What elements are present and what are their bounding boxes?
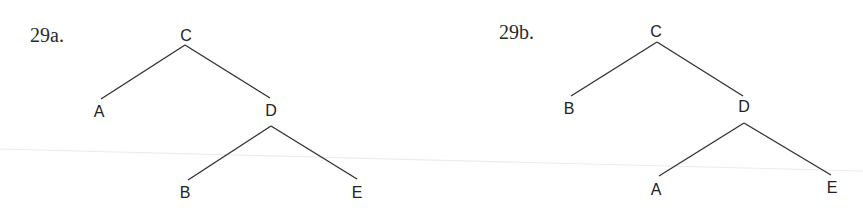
node-e: E <box>352 184 363 201</box>
edge-c-d <box>185 45 270 98</box>
edge-d-e <box>744 123 831 175</box>
figure-label-29b: 29b. <box>499 21 534 43</box>
edge-c-b <box>571 42 657 96</box>
tree-29b: 29b. CBDAE <box>499 21 837 198</box>
node-e: E <box>827 179 838 196</box>
node-d: D <box>265 102 277 119</box>
node-c: C <box>650 23 662 40</box>
tree-29a: 29a. CADBE <box>30 24 362 201</box>
node-b: B <box>180 184 191 201</box>
diagram-svg: 29a. CADBE 29b. CBDAE <box>0 0 863 208</box>
paper-crease <box>0 149 863 171</box>
edge-d-e <box>271 126 357 179</box>
edge-d-b <box>188 126 271 180</box>
figure-label-29a: 29a. <box>30 24 64 46</box>
node-a: A <box>94 103 105 120</box>
node-a: A <box>651 181 662 198</box>
node-c: C <box>180 27 192 44</box>
node-d: D <box>738 98 750 115</box>
node-b: B <box>564 100 575 117</box>
tree-diagrams: 29a. CADBE 29b. CBDAE <box>0 0 863 208</box>
edge-c-a <box>101 45 185 99</box>
edge-c-d <box>657 42 743 96</box>
